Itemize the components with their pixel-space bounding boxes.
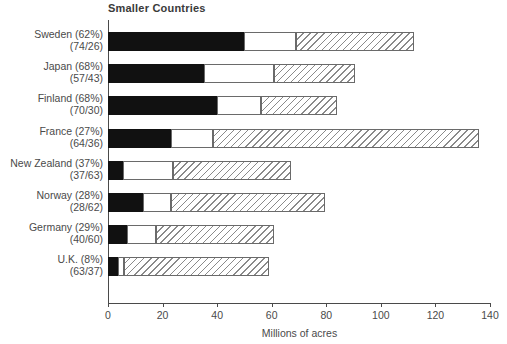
bar-segment-hatched: [171, 193, 325, 212]
x-tick-label: 140: [481, 309, 499, 321]
category-label: Norway (28%)(28/62): [36, 189, 103, 213]
bar-segment-solid: [108, 225, 127, 244]
x-tick-mark: [108, 303, 109, 307]
category-label: Finland (68%)(70/30): [38, 92, 103, 116]
x-tick-label: 60: [266, 309, 278, 321]
category-label-line1: Japan (68%): [43, 60, 103, 72]
x-tick-label: 0: [105, 309, 111, 321]
bar-segment-open: [143, 193, 170, 212]
bar-segment-solid: [108, 96, 217, 115]
bar-segment-open: [127, 225, 156, 244]
bar-segment-open: [204, 64, 275, 83]
bar-segment-hatched: [296, 32, 413, 51]
x-tick-mark: [217, 303, 218, 307]
bar-segment-open: [118, 257, 125, 276]
category-label-line2: (57/43): [43, 72, 103, 84]
category-label-line1: Finland (68%): [38, 92, 103, 104]
category-label-line1: Germany (29%): [29, 221, 103, 233]
chart-row: Germany (29%)(40/60): [0, 225, 507, 244]
bar-segment-solid: [108, 129, 171, 148]
bar-segment-hatched: [261, 96, 337, 115]
chart-row: Sweden (62%)(74/26): [0, 32, 507, 51]
chart-container: Smaller Countries Sweden (62%)(74/26)Jap…: [0, 0, 507, 344]
category-label-line1: Norway (28%): [36, 189, 103, 201]
x-tick-label: 100: [372, 309, 390, 321]
category-label-line2: (63/37): [57, 265, 103, 277]
bar-segment-open: [171, 129, 213, 148]
category-label: France (27%)(64/36): [39, 125, 103, 149]
category-label-line1: New Zealand (37%): [10, 157, 103, 169]
category-label: New Zealand (37%)(37/63): [10, 157, 103, 181]
chart-row: U.K. (8%)(63/37): [0, 257, 507, 276]
chart-row: New Zealand (37%)(37/63): [0, 161, 507, 180]
category-label: Japan (68%)(57/43): [43, 60, 103, 84]
category-label-line2: (70/30): [38, 104, 103, 116]
bar-segment-solid: [108, 161, 123, 180]
category-label: Germany (29%)(40/60): [29, 221, 103, 245]
bar-segment-solid: [108, 193, 143, 212]
category-label: U.K. (8%)(63/37): [57, 253, 103, 277]
bar-segment-hatched: [156, 225, 275, 244]
bar-segment-solid: [108, 64, 204, 83]
x-tick-mark: [326, 303, 327, 307]
chart-title: Smaller Countries: [108, 2, 206, 14]
chart-row: Japan (68%)(57/43): [0, 64, 507, 83]
category-label-line2: (40/60): [29, 233, 103, 245]
bar-segment-solid: [108, 32, 244, 51]
x-tick-mark: [435, 303, 436, 307]
chart-row: Norway (28%)(28/62): [0, 193, 507, 212]
category-label-line2: (64/36): [39, 137, 103, 149]
category-label-line2: (74/26): [34, 40, 103, 52]
category-label-line2: (37/63): [10, 169, 103, 181]
x-tick-label: 40: [211, 309, 223, 321]
bar-segment-hatched: [274, 64, 354, 83]
bar-segment-solid: [108, 257, 118, 276]
chart-row: France (27%)(64/36): [0, 129, 507, 148]
x-tick-label: 80: [320, 309, 332, 321]
category-label-line2: (28/62): [36, 201, 103, 213]
category-label-line1: Sweden (62%): [34, 28, 103, 40]
x-tick-mark: [272, 303, 273, 307]
x-axis-title: Millions of acres: [108, 327, 491, 339]
chart-row: Finland (68%)(70/30): [0, 96, 507, 115]
x-tick-label: 120: [427, 309, 445, 321]
bar-segment-hatched: [173, 161, 290, 180]
x-tick-mark: [381, 303, 382, 307]
bar-segment-hatched: [124, 257, 269, 276]
bar-segment-open: [123, 161, 173, 180]
category-label: Sweden (62%)(74/26): [34, 28, 103, 52]
bar-segment-open: [244, 32, 296, 51]
bar-segment-hatched: [213, 129, 479, 148]
x-axis-line: [108, 303, 491, 304]
category-label-line1: France (27%): [39, 125, 103, 137]
category-label-line1: U.K. (8%): [57, 253, 103, 265]
x-tick-label: 20: [157, 309, 169, 321]
x-tick-mark: [163, 303, 164, 307]
bar-segment-open: [217, 96, 261, 115]
x-tick-mark: [490, 303, 491, 307]
